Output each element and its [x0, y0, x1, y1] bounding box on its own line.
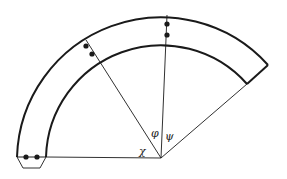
sector-diagram: χ φ ψ [0, 0, 287, 179]
right-end-cap [247, 65, 268, 84]
angle-label-psi: ψ [165, 130, 174, 143]
ray-right [161, 84, 247, 158]
inner-arc [46, 45, 247, 157]
angle-label-chi: χ [138, 145, 147, 158]
outer-arc [17, 17, 268, 157]
ray-upper-left [86, 40, 161, 158]
top-dots [164, 21, 169, 37]
angle-label-phi: φ [151, 127, 159, 140]
left-end-cap [17, 157, 46, 168]
